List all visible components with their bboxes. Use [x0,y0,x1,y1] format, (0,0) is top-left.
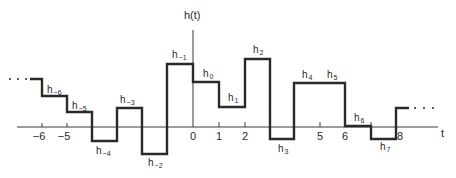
diagram-canvas: h(t) t −6 −5 0 1 2 5 6 8 h−6 h−5 h−4 h−3… [0,0,456,178]
horizontal-axis-label: t [441,127,444,139]
segment-label: h3 [278,143,289,155]
staircase-diagram: h(t) t −6 −5 0 1 2 5 6 8 h−6 h−5 h−4 h−3… [0,0,456,178]
segment-label: h−5 [72,100,87,112]
segment-label: h−4 [96,145,111,157]
segment-label: h5 [327,69,338,81]
tick-label: −6 [33,130,46,142]
tick-label: 6 [342,130,348,142]
tick-label: 1 [216,130,222,142]
segment-label: h−6 [47,84,62,96]
segment-label: h2 [253,44,264,56]
vertical-axis-label: h(t) [184,9,201,21]
segment-label: h4 [302,69,313,81]
right-continuation-dots [414,107,434,109]
tick-label: 5 [317,130,323,142]
segment-label: h7 [380,141,391,153]
segment-label: h−3 [120,94,135,106]
segment-label: h1 [228,92,239,104]
tick-labels: −6 −5 0 1 2 5 6 8 [33,130,403,142]
segment-label: h−2 [148,157,163,169]
segment-label: h6 [354,112,365,124]
tick-label: 8 [397,130,403,142]
tick-label: 0 [190,130,196,142]
segment-label: h0 [203,68,214,80]
left-continuation-dots [9,78,27,80]
segment-label: h−1 [172,49,187,61]
tick-label: 2 [242,130,248,142]
tick-label: −5 [58,130,71,142]
